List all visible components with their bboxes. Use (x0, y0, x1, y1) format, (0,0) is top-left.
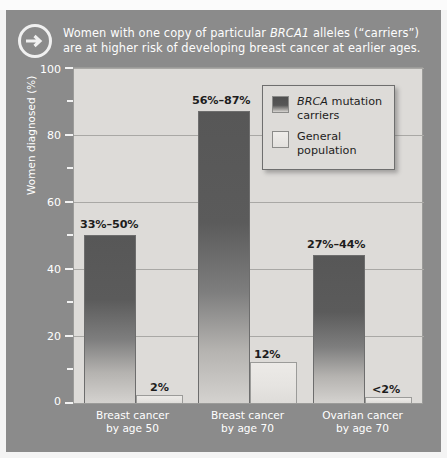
y-tick-label-100: 100 (40, 63, 61, 76)
x-label-ovarian70-line2: by age 70 (303, 422, 422, 435)
x-label-breast50-line1: Breast cancer (73, 409, 192, 422)
x-label-breast50-line2: by age 50 (73, 422, 192, 435)
x-label-breast70-line2: by age 70 (188, 422, 307, 435)
bar-chart: Women diagnosed (%) (28, 67, 428, 442)
y-tick-100 (65, 67, 73, 69)
y-tick-label-40: 40 (47, 263, 61, 276)
plot-area: 33%–50% 56%–87% 27%–44% 2% 12% <2% BRCA … (73, 67, 423, 404)
bar-general-ovarian70 (365, 397, 412, 403)
legend-swatch-carriers-icon (272, 96, 289, 113)
callout-text-part1: Women with one copy of particular (63, 26, 270, 40)
y-tick-90 (67, 100, 73, 102)
legend-swatch-general-icon (272, 131, 289, 148)
y-tick-label-80: 80 (47, 129, 61, 142)
y-tick-80 (65, 134, 73, 136)
legend-item-carriers: BRCA mutation carriers (272, 95, 394, 122)
y-tick-20 (65, 335, 73, 337)
x-label-breast70: Breast cancer by age 70 (188, 409, 307, 435)
y-tick-70 (67, 167, 73, 169)
callout-text-gene: BRCA1 (270, 26, 309, 40)
bar-general-breast70 (250, 362, 297, 403)
y-tick-40 (65, 268, 73, 270)
x-axis-labels: Breast cancer by age 50 Breast cancer by… (73, 409, 423, 443)
y-tick-0 (65, 402, 73, 404)
bar-general-breast50 (136, 395, 183, 403)
y-tick-50 (67, 234, 73, 236)
paper-margin (0, 0, 447, 10)
y-tick-label-0: 0 (54, 395, 61, 408)
bar-carriers-breast50 (84, 235, 136, 403)
y-axis-title: Women diagnosed (%) (25, 76, 37, 195)
callout-banner: Women with one copy of particular BRCA1 … (14, 18, 433, 63)
legend-label-carriers: BRCA mutation carriers (297, 95, 394, 122)
bar-label-carriers-ovarian70: 27%–44% (307, 238, 365, 251)
figure-panel: Women with one copy of particular BRCA1 … (6, 10, 441, 452)
y-tick-label-20: 20 (47, 330, 61, 343)
x-label-ovarian70: Ovarian cancer by age 70 (303, 409, 422, 435)
x-label-ovarian70-line1: Ovarian cancer (303, 409, 422, 422)
chart-legend: BRCA mutation carriers General populatio… (262, 85, 395, 170)
legend-label-carriers-gene: BRCA (297, 95, 328, 108)
bar-carriers-breast70 (198, 111, 250, 403)
callout-text: Women with one copy of particular BRCA1 … (63, 26, 433, 55)
gridline-100 (74, 68, 424, 69)
bar-carriers-ovarian70 (313, 255, 365, 403)
y-tick-10 (67, 368, 73, 370)
bar-label-general-breast70: 12% (254, 348, 280, 361)
arrow-right-circle-icon (18, 24, 52, 58)
bar-label-general-breast50: 2% (150, 381, 169, 394)
x-label-breast70-line1: Breast cancer (188, 409, 307, 422)
legend-item-general: General population (272, 130, 394, 157)
legend-label-general: General population (297, 130, 394, 157)
y-tick-30 (67, 301, 73, 303)
y-tick-label-60: 60 (47, 196, 61, 209)
figure-page: Women with one copy of particular BRCA1 … (0, 0, 447, 458)
bar-label-carriers-breast50: 33%–50% (80, 218, 138, 231)
bar-label-carriers-breast70: 56%–87% (192, 94, 250, 107)
plot-background: 33%–50% 56%–87% 27%–44% 2% 12% <2% BRCA … (73, 67, 423, 404)
y-tick-60 (65, 201, 73, 203)
x-label-breast50: Breast cancer by age 50 (73, 409, 192, 435)
bar-label-general-ovarian70: <2% (372, 383, 400, 396)
